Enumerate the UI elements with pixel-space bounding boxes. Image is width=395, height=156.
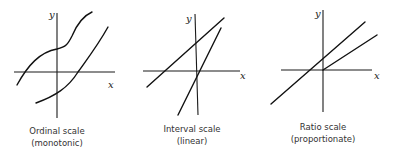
y-axis <box>195 14 198 115</box>
monotonic-curve-2 <box>36 27 108 103</box>
y-axis-label: y <box>185 13 192 24</box>
caption-line2: (linear) <box>137 135 247 147</box>
caption-line1: Ratio scale <box>268 121 378 133</box>
monotonic-curve-1 <box>17 12 92 85</box>
x-axis-label: x <box>374 70 380 81</box>
y-axis-label: y <box>48 9 55 20</box>
ratio-panel: y x <box>271 8 380 112</box>
x-axis-label: x <box>240 70 246 81</box>
x-axis-label: x <box>108 79 114 90</box>
caption-line1: Ordinal scale <box>2 125 112 137</box>
ordinal-caption: Ordinal scale (monotonic) <box>2 125 112 149</box>
caption-line2: (monotonic) <box>2 137 112 149</box>
y-axis-label: y <box>314 8 321 19</box>
interval-panel: y x <box>143 13 246 115</box>
caption-line1: Interval scale <box>137 123 247 135</box>
interval-caption: Interval scale (linear) <box>137 123 247 147</box>
proportional-line-1 <box>271 22 365 104</box>
linear-line-1 <box>147 18 224 87</box>
ratio-caption: Ratio scale (proportionate) <box>268 121 378 145</box>
caption-line2: (proportionate) <box>268 133 378 145</box>
ordinal-panel: y x <box>14 9 115 118</box>
